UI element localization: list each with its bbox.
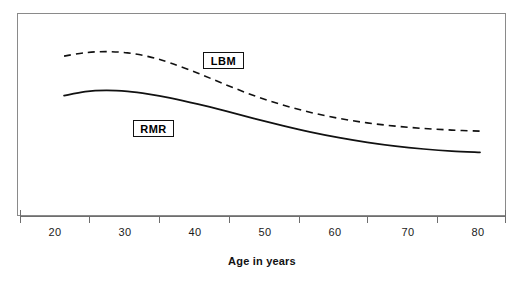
x-tick-label: 70	[388, 226, 428, 239]
plot-frame	[17, 13, 506, 216]
series-label-rmr: RMR	[133, 120, 174, 137]
x-tick-label: 20	[35, 226, 75, 239]
chart-figure: LBM RMR 20 30 40 50 60 70 80 Age in year…	[0, 0, 520, 281]
x-tick-label: 40	[175, 226, 215, 239]
x-tick-label: 60	[315, 226, 355, 239]
x-tick-label: 80	[458, 226, 498, 239]
x-tick-label: 30	[105, 226, 145, 239]
x-axis-title: Age in years	[0, 255, 520, 267]
x-tick-label: 50	[245, 226, 285, 239]
series-label-lbm: LBM	[203, 52, 244, 69]
x-axis-title-text: Age in years	[228, 255, 296, 267]
